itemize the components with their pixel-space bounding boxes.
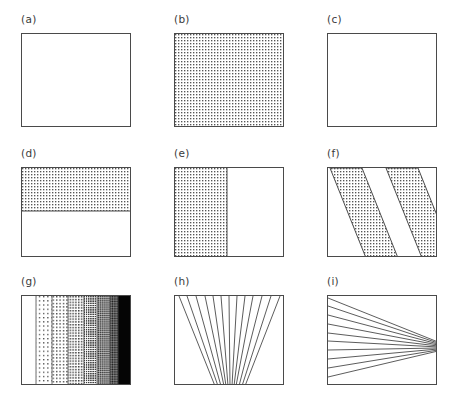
panel-d-stipple xyxy=(22,168,131,257)
panel-e-stipple xyxy=(175,168,284,257)
panel-f-bands xyxy=(328,168,437,257)
pattern-fill-figure: (a) (b) (c) (d) xyxy=(0,0,463,408)
panel-h-label: (h) xyxy=(174,275,190,287)
panel-i-label: (i) xyxy=(327,275,339,287)
panel-d-box xyxy=(21,167,131,257)
panel-c-label: (c) xyxy=(327,13,342,25)
panel-g-label: (g) xyxy=(21,275,37,287)
panel-e-box xyxy=(174,167,284,257)
panel-a-label: (a) xyxy=(21,13,37,25)
panel-h-box xyxy=(174,295,284,385)
panel-f-label: (f) xyxy=(327,147,340,159)
panel-h-line-fan xyxy=(175,296,284,385)
panel-g-box xyxy=(21,295,131,385)
panel-i-box xyxy=(327,295,437,385)
panel-b-stipple xyxy=(175,34,284,127)
panel-b-box xyxy=(174,33,284,127)
panel-e-label: (e) xyxy=(174,147,190,159)
panel-i-line-fan xyxy=(328,296,437,385)
panel-a-box xyxy=(21,33,131,127)
panel-g-density-ramp xyxy=(22,296,131,385)
panel-b-label: (b) xyxy=(174,13,190,25)
panel-d-label: (d) xyxy=(21,147,37,159)
panel-c-box xyxy=(327,33,437,127)
panel-f-box xyxy=(327,167,437,257)
